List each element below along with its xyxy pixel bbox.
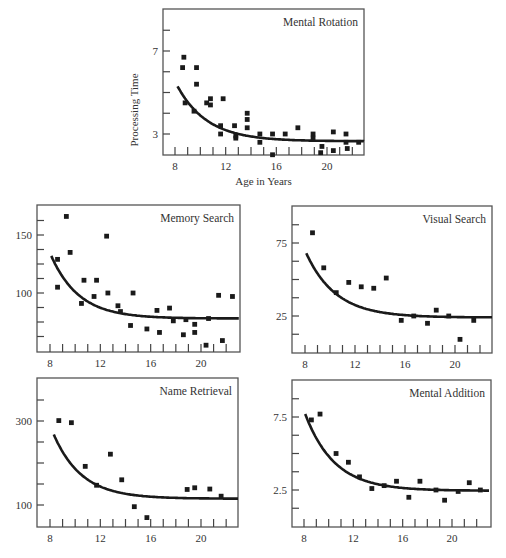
data-point — [320, 144, 325, 149]
panel-mental-addition: 81216202.57.5Mental Addition — [273, 380, 491, 544]
data-point — [346, 280, 351, 285]
data-point — [157, 330, 162, 335]
data-point — [55, 257, 60, 262]
data-point — [456, 489, 461, 494]
data-point — [318, 150, 323, 155]
data-point — [369, 486, 374, 491]
data-point — [105, 291, 110, 296]
data-point — [311, 136, 316, 141]
data-point — [94, 483, 99, 488]
data-point — [245, 117, 250, 122]
x-tick-label: 12 — [348, 532, 359, 544]
data-point — [171, 318, 176, 323]
data-point — [233, 136, 238, 141]
y-tick-label: 3 — [153, 128, 159, 140]
data-point — [442, 498, 447, 503]
y-tick-label: 7.5 — [273, 411, 287, 423]
data-point — [64, 214, 69, 219]
data-point — [144, 327, 149, 332]
plot-frame — [292, 380, 491, 527]
data-point — [309, 418, 314, 423]
data-point — [181, 332, 186, 337]
x-tick-label: 20 — [196, 532, 208, 544]
data-point — [257, 140, 262, 145]
x-tick-label: 8 — [47, 532, 53, 544]
data-point — [167, 306, 172, 311]
data-point — [384, 276, 389, 281]
data-point — [83, 464, 88, 469]
x-tick-label: 12 — [95, 357, 106, 369]
data-point — [218, 123, 223, 128]
y-tick-label: 100 — [16, 499, 33, 511]
plot-frame — [37, 378, 238, 527]
data-point — [344, 140, 349, 145]
x-tick-label: 12 — [220, 160, 231, 172]
y-tick-label: 300 — [16, 415, 33, 427]
data-point — [318, 412, 323, 417]
fit-curve — [51, 256, 239, 319]
figure-canvas: 812162037Mental Rotation 8121620100150Me… — [0, 0, 506, 558]
data-point — [118, 309, 123, 314]
data-point — [55, 285, 60, 290]
data-point — [230, 294, 235, 299]
data-point — [108, 452, 113, 457]
data-point — [131, 291, 136, 296]
data-point — [399, 318, 404, 323]
data-point — [144, 515, 149, 520]
data-point — [425, 321, 430, 326]
data-point — [216, 293, 221, 298]
data-point — [245, 111, 250, 116]
data-point — [218, 132, 223, 137]
data-point — [194, 82, 199, 87]
data-point — [82, 278, 87, 283]
data-point — [446, 314, 451, 319]
data-point — [471, 318, 476, 323]
data-point — [245, 125, 250, 130]
data-point — [434, 308, 439, 313]
data-point — [194, 65, 199, 70]
x-tick-label: 16 — [145, 357, 157, 369]
y-tick-label: 75 — [276, 237, 288, 249]
data-point — [69, 420, 74, 425]
data-point — [219, 494, 224, 499]
data-point — [128, 323, 133, 328]
data-point — [346, 460, 351, 465]
data-point — [79, 301, 84, 306]
panel-visual-search: 81216202575Visual Search — [276, 206, 492, 370]
data-point — [119, 477, 124, 482]
data-point — [192, 330, 197, 335]
data-point — [180, 65, 185, 70]
data-point — [418, 479, 423, 484]
data-point — [184, 317, 189, 322]
x-tick-label: 20 — [447, 532, 459, 544]
data-point — [220, 338, 225, 343]
data-point — [310, 230, 315, 235]
y-tick-label: 100 — [16, 287, 33, 299]
data-point — [458, 337, 463, 342]
data-point — [371, 286, 376, 291]
fit-curve — [306, 253, 492, 317]
data-point — [357, 474, 362, 479]
chart-title: Memory Search — [160, 212, 234, 225]
data-point — [192, 109, 197, 114]
data-point — [257, 132, 262, 137]
data-point — [208, 103, 213, 108]
data-point — [56, 418, 61, 423]
y-axis-label: Processing Time — [128, 73, 140, 146]
data-point — [104, 234, 109, 239]
data-point — [345, 146, 350, 151]
data-point — [331, 130, 336, 135]
x-tick-label: 8 — [172, 160, 178, 172]
data-point — [434, 488, 439, 493]
data-point — [467, 480, 472, 485]
chart-title: Visual Search — [423, 213, 487, 225]
x-tick-label: 8 — [47, 357, 53, 369]
data-point — [382, 483, 387, 488]
chart-title: Name Retrieval — [160, 385, 232, 397]
data-point — [181, 55, 186, 60]
panel-name-retrieval: 8121620100300Name Retrieval — [16, 378, 239, 544]
x-tick-label: 16 — [400, 358, 412, 370]
data-point — [207, 487, 212, 492]
data-point — [331, 148, 336, 153]
data-point — [116, 303, 121, 308]
